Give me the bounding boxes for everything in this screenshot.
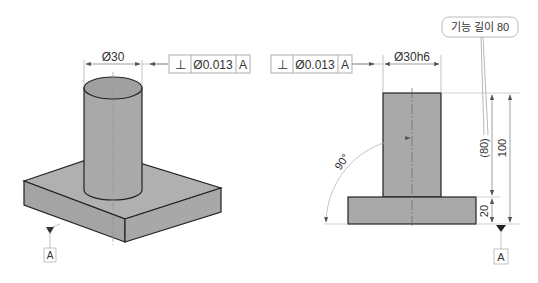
functional-length-callout: 기능 길이 80 — [442, 17, 518, 135]
drawing-canvas: Ø30 ⊥ Ø0.013 A A Ø30h6 ⊥ Ø0 — [0, 0, 538, 283]
datum-ref: A — [341, 58, 349, 72]
isometric-part — [24, 72, 221, 245]
left-datum-marker: A — [44, 224, 60, 262]
dim-80: (80) — [478, 138, 490, 158]
perpendicularity-symbol: ⊥ — [277, 57, 288, 72]
datum-triangle-icon — [496, 225, 506, 232]
dim-20: 20 — [478, 205, 490, 217]
right-datum-marker: A — [494, 225, 508, 264]
right-diameter-label: Ø30h6 — [394, 50, 430, 64]
right-feature-control-frame: ⊥ Ø0.013 A — [271, 55, 374, 73]
datum-label: A — [47, 250, 54, 261]
tolerance-value: Ø0.013 — [295, 58, 335, 72]
right-diameter-dimension: Ø30h6 — [352, 50, 441, 92]
left-feature-control-frame: ⊥ Ø0.013 A — [150, 55, 250, 73]
front-view-part — [348, 88, 476, 228]
tolerance-value: Ø0.013 — [193, 58, 233, 72]
left-diameter-label: Ø30 — [102, 50, 125, 64]
angle-label: 90° — [332, 151, 351, 172]
datum-ref: A — [239, 58, 247, 72]
dim-100: 100 — [496, 139, 508, 157]
datum-label: A — [497, 251, 505, 263]
perpendicularity-symbol: ⊥ — [175, 57, 186, 72]
callout-text: 기능 길이 80 — [451, 21, 509, 33]
